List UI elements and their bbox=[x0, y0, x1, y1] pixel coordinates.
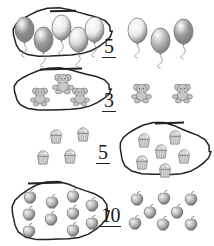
cupcake-icon bbox=[133, 152, 151, 171]
apple-icon bbox=[170, 203, 184, 220]
apple-icon bbox=[130, 190, 144, 207]
teddy-bear-icon bbox=[131, 82, 152, 103]
apple-icon bbox=[66, 187, 80, 204]
cupcake-icon bbox=[34, 147, 52, 166]
answer-underline bbox=[102, 111, 116, 112]
answer-numeral-apple[interactable]: 10 bbox=[101, 205, 120, 225]
apple-icon bbox=[66, 204, 80, 221]
apple-icon bbox=[128, 214, 142, 231]
balloon-icon bbox=[14, 16, 35, 57]
teddy-bear-icon bbox=[30, 86, 50, 106]
cupcake-icon bbox=[175, 146, 193, 165]
apple-icon bbox=[23, 188, 37, 205]
balloon-icon bbox=[127, 17, 148, 58]
apple-icon bbox=[44, 210, 58, 227]
answer-underline bbox=[99, 226, 121, 227]
apple-icon bbox=[85, 214, 99, 231]
cupcake-icon bbox=[74, 124, 92, 143]
cupcake-icon bbox=[61, 146, 79, 165]
balloon-icon bbox=[84, 16, 105, 57]
apple-icon bbox=[45, 193, 59, 210]
apple-icon bbox=[22, 222, 36, 239]
balloon-icon bbox=[173, 18, 194, 59]
cupcake-icon bbox=[156, 160, 174, 179]
apple-icon bbox=[22, 205, 36, 222]
answer-numeral-balloon[interactable]: 5 bbox=[104, 36, 114, 56]
answer-underline bbox=[96, 163, 110, 164]
apple-icon bbox=[85, 196, 99, 213]
answer-underline bbox=[102, 57, 116, 58]
teddy-bear-icon bbox=[172, 82, 193, 103]
teddy-bear-icon bbox=[70, 86, 90, 106]
answer-numeral-cupcake[interactable]: 5 bbox=[98, 142, 108, 162]
cupcake-icon bbox=[47, 126, 65, 145]
answer-numeral-teddy-bear[interactable]: 3 bbox=[104, 90, 114, 110]
cupcake-icon bbox=[152, 141, 170, 160]
apple-icon bbox=[66, 221, 80, 238]
apple-icon bbox=[157, 189, 171, 206]
worksheet-page: 53510 bbox=[0, 0, 214, 246]
apple-icon bbox=[184, 215, 198, 232]
apple-icon bbox=[143, 203, 157, 220]
apple-icon bbox=[156, 215, 170, 232]
apple-icon bbox=[184, 190, 198, 207]
cupcake-icon bbox=[135, 130, 153, 149]
balloon-icon bbox=[150, 27, 171, 68]
